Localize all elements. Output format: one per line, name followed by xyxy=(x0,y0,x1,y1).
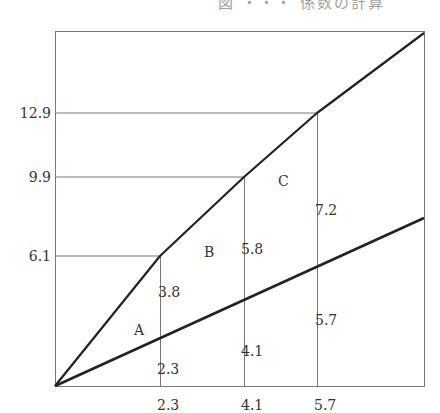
x-label-2-3: 2.3 xyxy=(157,397,179,413)
lower-value-5-7: 5.7 xyxy=(315,312,337,328)
lower-value-4-1: 4.1 xyxy=(241,343,263,359)
plot-frame xyxy=(56,32,425,387)
x-label-5-7: 5.7 xyxy=(314,397,336,413)
upper-value-3-8: 3.8 xyxy=(158,284,180,300)
region-label-c: C xyxy=(278,173,289,189)
diagram-canvas: 12.9 9.9 6.1 2.3 4.1 5.7 A B C 3.8 5.8 7… xyxy=(0,0,440,413)
upper-value-5-8: 5.8 xyxy=(241,241,263,257)
x-label-4-1: 4.1 xyxy=(241,397,263,413)
region-label-a: A xyxy=(133,322,145,338)
lower-value-2-3: 2.3 xyxy=(157,361,179,377)
y-label-9-9: 9.9 xyxy=(29,169,51,185)
y-label-12-9: 12.9 xyxy=(20,105,51,121)
region-label-b: B xyxy=(204,244,214,260)
lower-line xyxy=(55,218,424,386)
upper-value-7-2: 7.2 xyxy=(315,202,337,218)
y-label-6-1: 6.1 xyxy=(29,248,51,264)
upper-curve xyxy=(55,33,424,386)
